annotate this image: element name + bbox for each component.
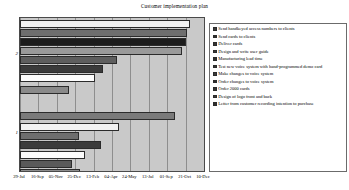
legend-item[interactable]: Manufacturing lead time (213, 56, 344, 61)
legend-item[interactable]: Send handkeyed access numbers to clients (213, 26, 344, 31)
x-axis-tick-label: 16-Sep (31, 174, 44, 179)
bars-layer (20, 18, 204, 171)
bar (20, 47, 182, 55)
bar (20, 160, 72, 168)
x-axis-tick-label: 25-Dec (67, 174, 81, 179)
legend-item[interactable]: Make changes to voice system (213, 71, 344, 76)
y-axis-tick-label: 2 (8, 51, 18, 56)
legend-item-label: Letter from customer recording intention… (218, 101, 344, 106)
legend-swatch-icon (213, 35, 217, 39)
bar (20, 141, 101, 149)
legend-swatch-icon (213, 95, 217, 99)
bar (20, 20, 190, 28)
bar (20, 56, 117, 64)
legend-item[interactable]: Deliver cards (213, 41, 344, 46)
legend-item[interactable]: Letter from customer recording intention… (213, 101, 344, 106)
legend-item-label: Design and write user guide (218, 49, 344, 54)
bar (20, 86, 69, 94)
chart-container: Customer implementation plan 21 29-Jul16… (0, 0, 349, 190)
x-axis-tick-label: 13-Feb (86, 174, 99, 179)
bar (20, 169, 80, 172)
legend-item[interactable]: Order 2000 cards (213, 86, 344, 91)
plot-area (19, 17, 205, 172)
legend-swatch-icon (213, 87, 217, 91)
x-axis-tick-label: 24-May (122, 174, 137, 179)
bar (20, 65, 103, 73)
legend-swatch-icon (213, 27, 217, 31)
gridline (204, 18, 205, 171)
x-axis: 29-Jul16-Sep05-Nov25-Dec13-Feb04-Apr24-M… (19, 174, 205, 184)
legend-swatch-icon (213, 102, 217, 106)
legend-swatch-icon (213, 50, 217, 54)
legend-swatch-icon (213, 42, 217, 46)
bar (20, 74, 95, 82)
bar (20, 132, 79, 140)
legend-item-label: Order changes to voice system (218, 79, 344, 84)
x-axis-tick-label: 13-Jul (142, 174, 153, 179)
bar (20, 151, 85, 159)
legend-item-label: Make changes to voice system (218, 71, 344, 76)
x-axis-tick-label: 05-Nov (49, 174, 63, 179)
legend-item[interactable]: Order changes to voice system (213, 79, 344, 84)
x-axis-tick-label: 29-Jul (13, 174, 24, 179)
legend-item-label: Send handkeyed access numbers to clients (218, 26, 344, 31)
legend-item-label: Design of logo front and back (218, 94, 344, 99)
x-axis-tick-label: 21-Oct (178, 174, 191, 179)
bar (20, 123, 119, 131)
bar (20, 112, 175, 120)
legend-item[interactable]: Design and write user guide (213, 49, 344, 54)
bar (20, 38, 186, 46)
legend-item[interactable]: Send cards to clients (213, 34, 344, 39)
legend-swatch-icon (213, 80, 217, 84)
x-axis-tick-label: 04-Apr (104, 174, 117, 179)
legend-item-label: Test new voice system with hand-programm… (218, 64, 344, 69)
legend-item-label: Send cards to clients (218, 34, 344, 39)
legend-item-label: Order 2000 cards (218, 86, 344, 91)
legend-swatch-icon (213, 65, 217, 69)
chart-legend: Send handkeyed access numbers to clients… (209, 23, 347, 172)
chart-title: Customer implementation plan (0, 3, 349, 9)
legend-item[interactable]: Design of logo front and back (213, 94, 344, 99)
bar (20, 29, 187, 37)
y-axis-tick-label: 1 (8, 130, 18, 135)
legend-swatch-icon (213, 72, 217, 76)
legend-item[interactable]: Test new voice system with hand-programm… (213, 64, 344, 69)
legend-item-label: Manufacturing lead time (218, 56, 344, 61)
x-axis-tick-label: 01-Sep (160, 174, 173, 179)
legend-item-label: Deliver cards (218, 41, 344, 46)
legend-swatch-icon (213, 57, 217, 61)
x-axis-tick-label: 10-Dec (196, 174, 210, 179)
